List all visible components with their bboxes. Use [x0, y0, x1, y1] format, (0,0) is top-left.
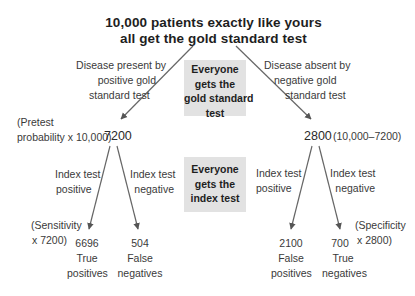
outcome-label: positives	[271, 266, 311, 281]
outcome-label: False	[117, 251, 163, 266]
gold-standard-box-line: gold standard	[184, 91, 246, 106]
right-index-negative-label: Index test negative	[330, 166, 375, 196]
index-test-box: Everyone gets the index test	[184, 157, 246, 212]
label-line: Index test	[130, 167, 174, 182]
diagram-title-line2: all get the gold standard test	[0, 31, 415, 46]
label-line: positive	[256, 181, 302, 196]
label-line: Disease present by	[60, 58, 166, 73]
note-line: (Specificity	[355, 218, 406, 233]
outcome-label: negatives	[117, 266, 163, 281]
note-line: (Pretest	[17, 115, 112, 130]
index-test-box-line: index test	[184, 191, 246, 206]
outcome-label: True	[322, 251, 364, 266]
label-line: standard test	[264, 88, 384, 103]
index-test-box-line: gets the	[184, 177, 246, 192]
disease-present-label: Disease present by positive gold standar…	[60, 58, 166, 103]
outcome-true-positives: 6696 True positives	[67, 236, 107, 281]
left-index-negative-label: Index test negative	[130, 167, 174, 197]
index-test-box-line: Everyone	[184, 162, 246, 177]
outcome-false-positives: 2100 False positives	[271, 236, 311, 281]
outcome-true-negatives: 700 True negatives	[322, 236, 364, 281]
outcome-label: positives	[67, 266, 107, 281]
disease-absent-count: 2800	[304, 129, 332, 143]
disease-absent-note: (10,000–7200)	[333, 129, 401, 144]
right-index-positive-label: Index test positive	[256, 166, 302, 196]
disease-absent-label: Disease absent by negative gold standard…	[264, 58, 384, 103]
label-line: positive gold	[60, 73, 166, 88]
disease-present-count: 7200	[104, 129, 132, 143]
label-line: standard test	[60, 88, 166, 103]
gold-standard-box-line: test	[184, 106, 246, 121]
outcome-value: 700	[322, 236, 364, 251]
label-line: negative gold	[264, 73, 384, 88]
note-line: (Sensitivity	[31, 218, 82, 233]
gold-standard-box-line: gets the	[184, 77, 246, 92]
outcome-label: False	[271, 251, 311, 266]
label-line: Index test	[256, 166, 302, 181]
label-line: positive	[55, 182, 101, 197]
gold-standard-box-line: Everyone	[184, 62, 246, 77]
outcome-value: 6696	[67, 236, 107, 251]
outcome-label: True	[67, 251, 107, 266]
label-line: Disease absent by	[264, 58, 384, 73]
outcome-value: 2100	[271, 236, 311, 251]
outcome-label: negatives	[322, 266, 364, 281]
label-line: Index test	[55, 167, 101, 182]
outcome-value: 504	[117, 236, 163, 251]
pretest-note: (Pretest probability x 10,000)	[17, 115, 112, 145]
outcome-false-negatives: 504 False negatives	[117, 236, 163, 281]
left-index-positive-label: Index test positive	[55, 167, 101, 197]
label-line: negative	[130, 182, 174, 197]
note-line: probability x 10,000)	[17, 130, 112, 145]
gold-standard-box: Everyone gets the gold standard test	[184, 60, 246, 116]
label-line: Index test	[330, 166, 375, 181]
diagram-title-line1: 10,000 patients exactly like yours	[0, 15, 415, 30]
label-line: negative	[330, 181, 375, 196]
